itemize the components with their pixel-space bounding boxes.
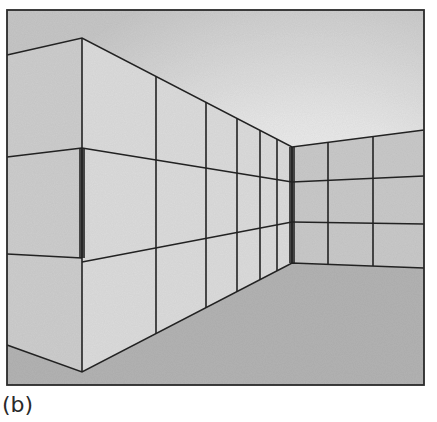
room-perspective-illustration	[0, 0, 437, 422]
wall-near-left	[7, 38, 82, 372]
wall-right	[292, 130, 424, 268]
figure-caption: (b)	[2, 392, 33, 417]
